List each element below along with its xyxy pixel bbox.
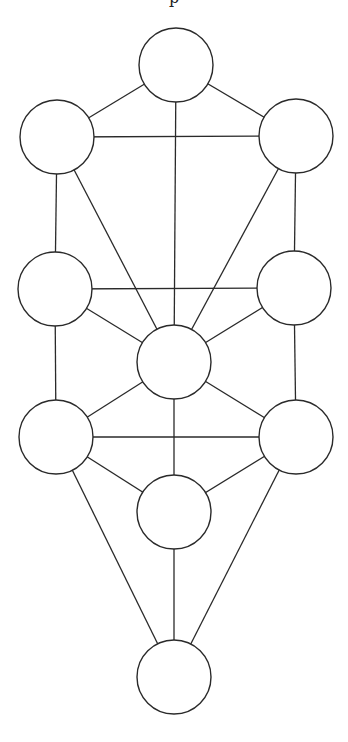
edge-n2-n6: [57, 137, 174, 362]
node-n7: [19, 400, 93, 474]
edge-n7-n10: [56, 437, 174, 677]
node-n6: [137, 325, 211, 399]
edge-n3-n6: [174, 136, 296, 362]
node-n3: [259, 99, 333, 173]
node-n2: [20, 100, 94, 174]
node-n1: [139, 28, 213, 102]
node-n10: [137, 640, 211, 714]
edge-n8-n10: [174, 437, 296, 677]
node-n5: [257, 251, 331, 325]
node-n8: [259, 400, 333, 474]
node-n4: [18, 252, 92, 326]
tree-of-life-diagram: [0, 0, 348, 742]
node-n9: [137, 475, 211, 549]
edge-n1-n6: [174, 65, 176, 362]
